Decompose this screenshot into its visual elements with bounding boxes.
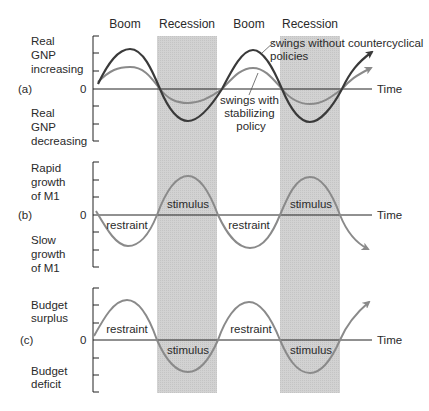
region-label-c-4: stimulus — [290, 344, 332, 356]
panel-tag-b: (b) — [18, 209, 32, 221]
phase-label-recession-1: Recession — [159, 17, 215, 31]
region-label-c-2: stimulus — [167, 344, 209, 356]
leader-with — [249, 73, 258, 95]
zero-label-a: 0 — [80, 83, 86, 95]
region-label-b-4: stimulus — [290, 198, 332, 210]
annotation-with: swings with stabilizing policy — [220, 94, 282, 132]
annotation-without: swings without countercyclical policies — [270, 37, 427, 62]
panel-a: Time 0 (a) Real GNP increasing Real GNP … — [18, 35, 427, 147]
time-label-b: Time — [377, 209, 402, 221]
panel-tag-c: (c) — [20, 334, 34, 346]
time-label-c: Time — [377, 334, 402, 346]
phase-label-recession-2: Recession — [282, 17, 338, 31]
zero-label-c: 0 — [80, 334, 86, 346]
business-cycle-diagram: Boom Recession Boom Recession Time 0 (a)… — [0, 0, 429, 411]
phase-label-boom-2: Boom — [233, 17, 264, 31]
time-label-a: Time — [377, 83, 402, 95]
region-label-b-3: restraint — [228, 219, 270, 231]
upper-label-b: Rapid growth of M1 — [31, 162, 69, 202]
lower-label-a: Real GNP decreasing — [31, 107, 87, 147]
region-label-b-2: stimulus — [167, 198, 209, 210]
upper-label-c: Budget surplus — [31, 299, 71, 324]
region-label-c-1: restraint — [106, 323, 148, 335]
upper-label-a: Real GNP increasing — [31, 35, 83, 75]
lower-label-c: Budget deficit — [31, 365, 71, 390]
zero-label-b: 0 — [80, 209, 86, 221]
region-label-b-1: restraint — [106, 219, 148, 231]
region-label-c-3: restraint — [230, 323, 272, 335]
panel-tag-a: (a) — [18, 83, 32, 95]
lower-label-b: Slow growth of M1 — [31, 234, 69, 274]
phase-label-boom-1: Boom — [109, 17, 140, 31]
